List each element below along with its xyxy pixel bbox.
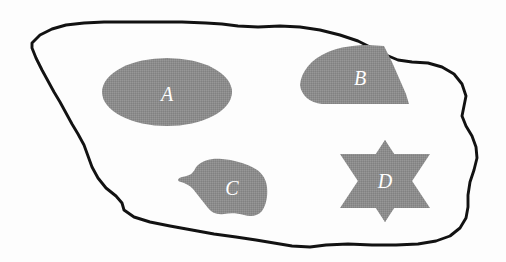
figure-container: A B C D [0,0,506,262]
region-A: A [102,58,232,126]
region-D-label: D [377,170,393,192]
region-B-label: B [354,67,366,89]
region-A-label: A [159,83,174,105]
region-diagram-svg: A B C D [0,0,506,262]
region-C-label: C [225,177,239,199]
